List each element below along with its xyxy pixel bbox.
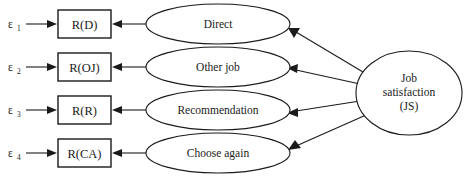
latent-path-group <box>287 28 366 150</box>
error-symbol-4: ε <box>8 147 13 159</box>
indicator-box-rca[interactable]: R(CA) <box>58 139 111 167</box>
construct-ellipse-choose-again[interactable]: Choose again <box>146 133 290 173</box>
error-subscript-3: 3 <box>17 110 21 119</box>
construct-ellipse-direct-label: Direct <box>204 18 234 30</box>
latent-path-recommendation <box>287 101 360 117</box>
diagram-svg: ε 1 ε 2 ε 3 ε 4 <box>0 0 470 177</box>
indicator-arrow-group <box>112 20 147 157</box>
construct-ellipse-other-job[interactable]: Other job <box>146 47 290 87</box>
indicator-arrow-choose-again <box>112 149 147 157</box>
construct-ellipse-recommendation-label: Recommendation <box>177 104 258 116</box>
indicator-box-rca-label: R(CA) <box>67 147 101 161</box>
latent-label-line3: (JS) <box>400 100 419 113</box>
error-subscript-1: 1 <box>17 24 21 33</box>
indicator-arrow-other-job <box>112 63 147 71</box>
indicator-box-rd-label: R(D) <box>72 18 98 32</box>
error-arrow-group <box>26 20 57 157</box>
latent-path-other-job <box>287 64 360 84</box>
error-term-4: ε 4 <box>8 147 21 162</box>
construct-ellipse-group: Direct Other job Recommendation Choose a… <box>146 4 290 173</box>
latent-label-line2: satisfaction <box>383 86 436 98</box>
error-arrow-1 <box>26 20 57 28</box>
path-diagram-canvas: ε 1 ε 2 ε 3 ε 4 <box>0 0 470 177</box>
indicator-box-group: R(D) R(OJ) R(R) R(CA) <box>58 10 111 167</box>
indicator-arrow-direct <box>112 20 147 28</box>
indicator-box-rr[interactable]: R(R) <box>58 96 111 124</box>
error-label-group: ε 1 ε 2 ε 3 ε 4 <box>8 18 21 162</box>
error-arrow-2 <box>26 63 57 71</box>
error-term-3: ε 3 <box>8 104 21 119</box>
construct-ellipse-other-job-label: Other job <box>196 61 240 74</box>
latent-ellipse-job-satisfaction[interactable]: Job satisfaction (JS) <box>356 51 462 135</box>
error-subscript-2: 2 <box>17 67 21 76</box>
error-symbol-2: ε <box>8 61 13 73</box>
error-arrow-3 <box>26 106 57 114</box>
latent-path-direct <box>288 28 363 72</box>
error-symbol-1: ε <box>8 18 13 30</box>
construct-ellipse-choose-again-label: Choose again <box>187 147 250 160</box>
error-symbol-3: ε <box>8 104 13 116</box>
construct-ellipse-recommendation[interactable]: Recommendation <box>146 90 290 130</box>
error-arrow-4 <box>26 149 57 157</box>
latent-path-choose-again <box>288 115 366 150</box>
indicator-box-roj-label: R(OJ) <box>69 61 100 75</box>
indicator-box-roj[interactable]: R(OJ) <box>58 53 111 81</box>
latent-label-line1: Job <box>401 72 417 84</box>
error-subscript-4: 4 <box>17 153 21 162</box>
error-term-2: ε 2 <box>8 61 21 76</box>
construct-ellipse-direct[interactable]: Direct <box>146 4 290 44</box>
error-term-1: ε 1 <box>8 18 21 33</box>
indicator-box-rr-label: R(R) <box>72 104 97 118</box>
indicator-arrow-recommendation <box>112 106 147 114</box>
indicator-box-rd[interactable]: R(D) <box>58 10 111 38</box>
